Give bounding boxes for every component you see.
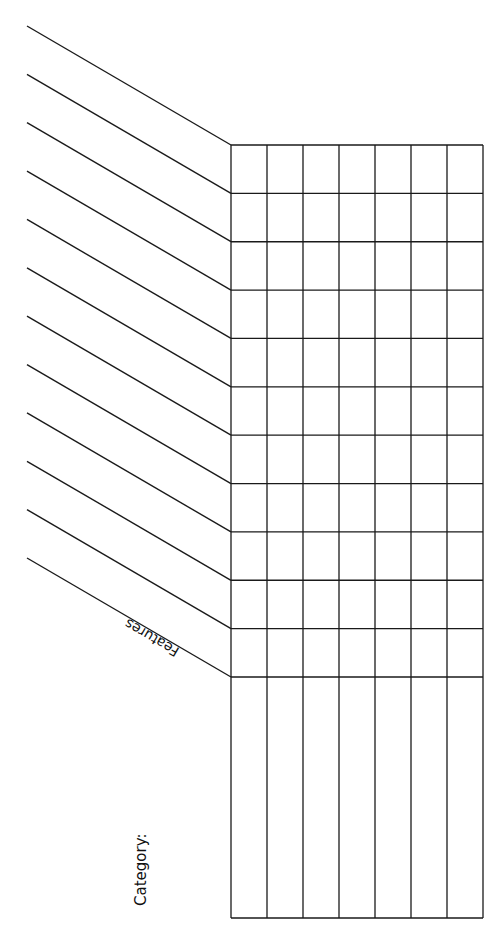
diagonal-header-line — [27, 123, 231, 242]
grid — [231, 145, 483, 918]
diagonal-header-line — [27, 268, 231, 387]
diagonal-header-line — [27, 413, 231, 532]
diagonal-header-line — [27, 365, 231, 484]
diagonal-header-line — [27, 26, 231, 145]
category-label: Category: — [132, 834, 150, 906]
diagonal-header-line — [27, 74, 231, 193]
diagonal-header-line — [27, 316, 231, 435]
comparison-grid-diagram — [0, 0, 499, 935]
diagonal-header-line — [27, 171, 231, 290]
feature-header-diagonals — [27, 26, 231, 677]
diagonal-header-line — [27, 510, 231, 629]
diagonal-header-line — [27, 219, 231, 338]
diagonal-header-line — [27, 461, 231, 580]
